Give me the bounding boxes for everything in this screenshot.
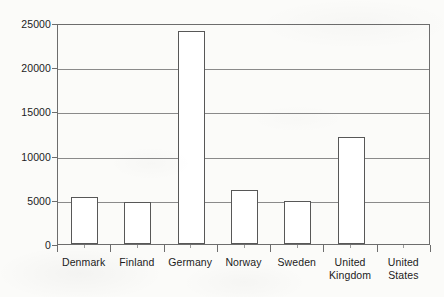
x-axis-tick-mark	[57, 245, 58, 252]
bar	[178, 31, 205, 244]
x-axis-tick-label: Finland	[110, 256, 163, 269]
bar	[124, 202, 151, 244]
x-axis-tick-label: Sweden	[270, 256, 323, 269]
bar-chart-figure: 0500010000150002000025000 DenmarkFinland…	[0, 0, 444, 297]
bar	[71, 197, 98, 244]
y-axis-tick-label: 10000	[21, 151, 51, 163]
x-axis-tick-mark	[110, 245, 111, 252]
x-axis-minor-tick-mark	[297, 245, 298, 248]
x-axis-tick-marks	[57, 245, 430, 254]
gridline	[58, 69, 429, 70]
x-axis-minor-tick-mark	[137, 245, 138, 248]
x-axis-tick-label: United Kingdom	[323, 256, 376, 281]
x-axis-minor-tick-mark	[403, 245, 404, 248]
bar	[231, 190, 258, 244]
bar	[284, 201, 311, 244]
x-axis-tick-labels: DenmarkFinlandGermanyNorwaySwedenUnited …	[57, 256, 430, 292]
y-axis-tick-label: 5000	[27, 195, 51, 207]
y-axis-tick-labels: 0500010000150002000025000	[0, 24, 51, 245]
x-axis-tick-mark	[323, 245, 324, 252]
x-axis-tick-mark	[270, 245, 271, 252]
bar	[338, 137, 365, 244]
x-axis-tick-mark	[164, 245, 165, 252]
gridline	[58, 113, 429, 114]
x-axis-tick-label: United States	[377, 256, 430, 281]
x-axis-minor-tick-mark	[84, 245, 85, 248]
x-axis-minor-tick-mark	[244, 245, 245, 248]
x-axis-minor-tick-mark	[190, 245, 191, 248]
x-axis-tick-label: Germany	[164, 256, 217, 269]
x-axis-tick-label: Norway	[217, 256, 270, 269]
x-axis-minor-tick-mark	[350, 245, 351, 248]
x-axis-tick-mark	[217, 245, 218, 252]
y-axis-tick-label: 20000	[21, 62, 51, 74]
gridline	[58, 158, 429, 159]
plot-area	[57, 24, 430, 245]
x-axis-tick-mark	[377, 245, 378, 252]
x-axis-tick-mark	[430, 245, 431, 252]
y-axis-tick-label: 15000	[21, 106, 51, 118]
y-axis-tick-label: 25000	[21, 18, 51, 30]
x-axis-tick-label: Denmark	[57, 256, 110, 269]
y-axis-tick-label: 0	[45, 239, 51, 251]
